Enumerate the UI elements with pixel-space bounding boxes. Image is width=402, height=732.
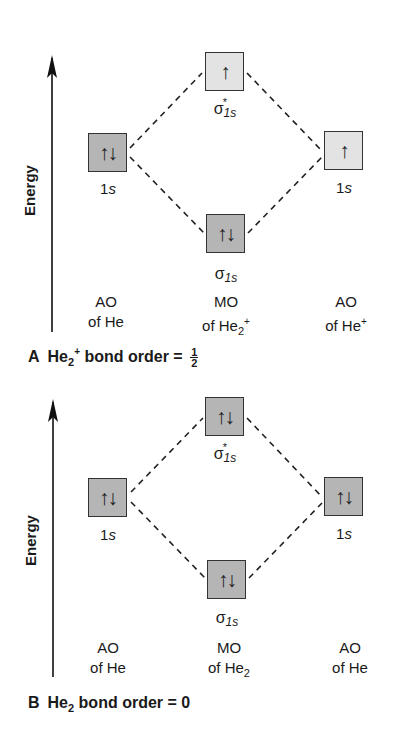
orbital-label-sigma: σ1s <box>216 609 239 629</box>
orbital-box-he-plus-1s: ↑ <box>324 131 363 170</box>
bond-order-fraction: 12 <box>190 347 198 368</box>
orbital-label: 1s <box>336 179 352 196</box>
orbital-box-sigma-1s: ↑↓ <box>206 214 245 253</box>
column-label-ao-he-plus: AOof He+ <box>325 292 367 336</box>
orbital-box-sigma-star-1s: ↑ <box>205 52 244 91</box>
orbital-box-he-1s: ↑↓ <box>88 478 127 517</box>
orbital-box-sigma-star-1s: ↑↓ <box>205 397 244 436</box>
column-label-ao-he: AOof He <box>90 638 126 678</box>
energy-axis-label: Energy <box>22 515 39 566</box>
orbital-label-sigma-star: σ*1s <box>214 445 237 465</box>
column-label-ao-he: AOof He <box>88 292 124 332</box>
orbital-box-sigma-1s: ↑↓ <box>207 560 246 599</box>
caption-a: AHe2+ bond order = 12 <box>28 346 198 368</box>
orbital-label-sigma: σ1s <box>215 265 238 285</box>
orbital-label: 1s <box>336 525 352 542</box>
orbital-box-he-1s: ↑↓ <box>88 133 127 172</box>
energy-axis-label: Energy <box>21 165 38 216</box>
orbital-label: 1s <box>100 180 116 197</box>
orbital-label-sigma-star: σ*1s <box>214 100 237 120</box>
column-label-mo: MOof He2+ <box>202 292 250 341</box>
column-label-mo: MOof He2 <box>208 638 250 683</box>
orbital-label: 1s <box>100 526 116 543</box>
caption-b: BHe2 bond order = 0 <box>28 694 190 714</box>
orbital-box-he-1s-right: ↑↓ <box>324 477 363 516</box>
column-label-ao-he-right: AOof He <box>332 638 368 678</box>
